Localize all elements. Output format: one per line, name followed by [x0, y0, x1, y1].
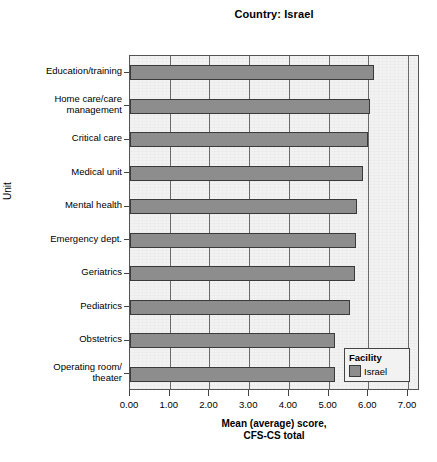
- bar: [130, 266, 355, 281]
- chart-container: Country: Israel Education/trainingHome c…: [0, 0, 437, 462]
- legend-swatch-icon: [349, 365, 361, 377]
- x-tick-label: 4.00: [279, 399, 298, 410]
- y-tick-mark: [124, 273, 129, 274]
- bar: [130, 367, 335, 382]
- y-tick-label: Mental health: [65, 199, 122, 210]
- y-tick-mark: [124, 105, 129, 106]
- plot-area: [129, 55, 419, 390]
- chart-title: Country: Israel: [129, 8, 419, 20]
- gridline-7.00: [408, 56, 409, 389]
- x-tick-label: 5.00: [318, 399, 337, 410]
- legend-entries: Israel: [349, 365, 405, 377]
- y-tick-label: Critical care: [72, 132, 122, 143]
- x-tick-mark: [169, 390, 170, 396]
- x-axis-title: Mean (average) score, CFS-CS total: [129, 418, 419, 442]
- bar: [130, 233, 356, 248]
- legend-entry: Israel: [349, 365, 405, 377]
- y-tick-label: Obstetrics: [79, 333, 122, 344]
- x-tick-label: 1.00: [159, 399, 178, 410]
- y-tick-label: Medical unit: [71, 166, 122, 177]
- y-tick-mark: [124, 306, 129, 307]
- bar: [130, 132, 368, 147]
- y-tick-mark: [124, 340, 129, 341]
- y-tick-label: Education/training: [46, 65, 122, 76]
- bar: [130, 199, 357, 214]
- bar: [130, 333, 335, 348]
- x-tick-mark: [129, 390, 130, 396]
- x-tick-mark: [367, 390, 368, 396]
- y-tick-label: Home care/care management: [54, 93, 122, 115]
- y-tick-label: Operating room/ theater: [53, 361, 122, 383]
- y-tick-mark: [124, 139, 129, 140]
- y-tick-label: Pediatrics: [80, 300, 122, 311]
- x-tick-label: 0.00: [120, 399, 139, 410]
- x-tick-mark: [407, 390, 408, 396]
- y-tick-label: Emergency dept.: [50, 233, 122, 244]
- y-tick-mark: [124, 206, 129, 207]
- bar: [130, 65, 374, 80]
- x-tick-mark: [208, 390, 209, 396]
- y-tick-label: Geriatrics: [81, 266, 122, 277]
- y-tick-mark: [124, 373, 129, 374]
- x-tick-mark: [248, 390, 249, 396]
- x-tick-mark: [328, 390, 329, 396]
- x-tick-label: 7.00: [398, 399, 417, 410]
- y-tick-mark: [124, 172, 129, 173]
- bar: [130, 166, 363, 181]
- x-tick-mark: [288, 390, 289, 396]
- x-tick-label: 6.00: [358, 399, 377, 410]
- bar: [130, 300, 350, 315]
- bar: [130, 99, 370, 114]
- x-tick-label: 2.00: [199, 399, 218, 410]
- x-tick-label: 3.00: [239, 399, 258, 410]
- legend-label: Israel: [364, 366, 387, 377]
- y-tick-mark: [124, 239, 129, 240]
- y-tick-mark: [124, 72, 129, 73]
- legend: Facility Israel: [344, 348, 410, 382]
- y-axis-title: Unit: [2, 182, 13, 200]
- legend-title: Facility: [349, 352, 405, 363]
